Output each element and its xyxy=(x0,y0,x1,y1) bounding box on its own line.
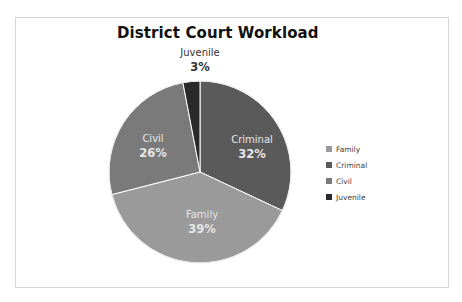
legend-swatch-icon xyxy=(326,178,332,184)
label-civil: Civil 26% xyxy=(123,132,183,160)
legend-item-juvenile: Juvenile xyxy=(326,189,367,205)
legend: Family Criminal Civil Juvenile xyxy=(326,141,367,205)
legend-swatch-icon xyxy=(326,162,332,168)
label-family: Family 39% xyxy=(172,208,232,236)
legend-item-family: Family xyxy=(326,141,367,157)
legend-swatch-icon xyxy=(326,146,332,152)
legend-item-civil: Civil xyxy=(326,173,367,189)
label-criminal: Criminal 32% xyxy=(222,133,282,161)
label-juvenile: Juvenile 3% xyxy=(170,46,230,74)
legend-swatch-icon xyxy=(326,194,332,200)
legend-item-criminal: Criminal xyxy=(326,157,367,173)
